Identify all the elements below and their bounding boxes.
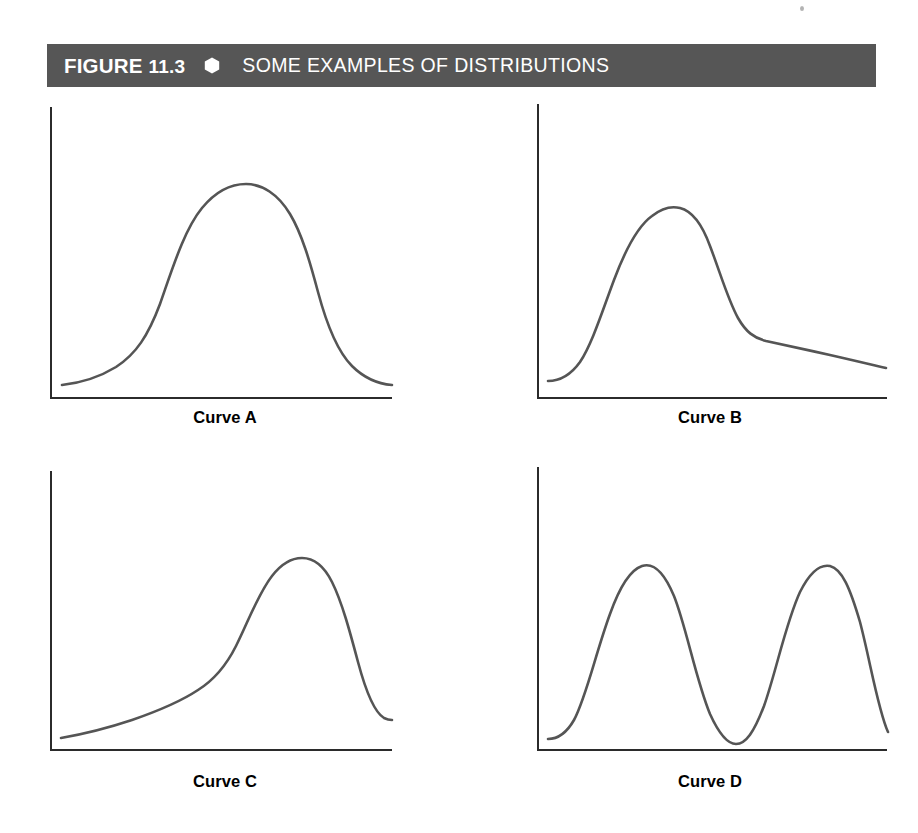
chart-curve-c <box>40 462 400 768</box>
panel-c-caption: Curve C <box>40 772 400 791</box>
axis-curve-c <box>51 472 391 750</box>
distribution-curve-a <box>62 184 392 385</box>
panel-b-caption: Curve B <box>478 408 896 427</box>
figure-number: 11.3 <box>149 56 186 77</box>
panel-a-caption: Curve A <box>40 408 400 427</box>
panel-curve-d: Curve D <box>478 462 896 802</box>
panel-curve-b: Curve B <box>478 104 896 434</box>
panel-curve-a: Curve A <box>40 104 400 434</box>
hexagon-bullet-icon <box>204 57 220 74</box>
panel-d-caption: Curve D <box>478 772 896 791</box>
chart-curve-b <box>478 104 896 404</box>
axis-curve-a <box>51 108 391 398</box>
figure-word: FIGURE <box>64 54 143 77</box>
distribution-curve-c <box>61 558 392 738</box>
distribution-curve-d <box>548 565 888 744</box>
distribution-curve-b <box>548 207 886 381</box>
figure-number-label: FIGURE 11.3 <box>64 54 185 78</box>
axis-curve-d <box>538 468 886 750</box>
figure-header-bar: FIGURE 11.3 SOME EXAMPLES OF DISTRIBUTIO… <box>47 44 876 87</box>
scan-artifact-speck <box>800 6 804 11</box>
panel-curve-c: Curve C <box>40 462 400 802</box>
chart-curve-d <box>478 462 896 768</box>
figure-title: SOME EXAMPLES OF DISTRIBUTIONS <box>242 54 609 77</box>
chart-curve-a <box>40 104 400 404</box>
